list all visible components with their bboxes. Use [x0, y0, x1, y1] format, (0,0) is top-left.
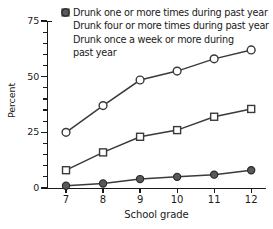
data-point	[174, 127, 181, 134]
data-point	[174, 173, 181, 180]
data-point	[62, 182, 69, 189]
series-line-0	[66, 50, 251, 132]
series-1	[63, 105, 255, 173]
chart-legend: Drunk one or more times during past year…	[60, 7, 272, 59]
legend-label-2: Drunk once a week or more during	[73, 34, 234, 47]
data-point	[137, 133, 144, 140]
data-point	[100, 149, 107, 156]
legend-item-2: Drunk once a week or more during	[60, 34, 272, 47]
data-point	[173, 67, 181, 75]
data-point	[99, 180, 106, 187]
data-point	[211, 171, 218, 178]
open-square-icon	[60, 20, 73, 21]
data-point	[99, 102, 107, 110]
series-line-1	[66, 109, 251, 170]
data-point	[63, 167, 70, 174]
legend-label-1: Drunk four or more times during past yea…	[73, 20, 269, 33]
drunkenness-by-grade-line-chart: 0255075 789101112 Percent School grade D…	[0, 0, 273, 229]
filled-circle-icon	[60, 34, 73, 35]
data-point	[136, 76, 144, 84]
series-2	[62, 167, 254, 190]
legend-item-1: Drunk four or more times during past yea…	[60, 20, 272, 33]
legend-label-2-line2: past year	[60, 47, 272, 60]
data-point	[248, 105, 255, 112]
series-0	[62, 46, 255, 136]
data-point	[248, 167, 255, 174]
data-point	[211, 113, 218, 120]
series-line-2	[66, 170, 251, 186]
data-point	[62, 128, 70, 136]
data-point	[136, 175, 143, 182]
legend-label-0: Drunk one or more times during past year	[73, 7, 268, 20]
legend-item-0: Drunk one or more times during past year	[60, 7, 272, 20]
